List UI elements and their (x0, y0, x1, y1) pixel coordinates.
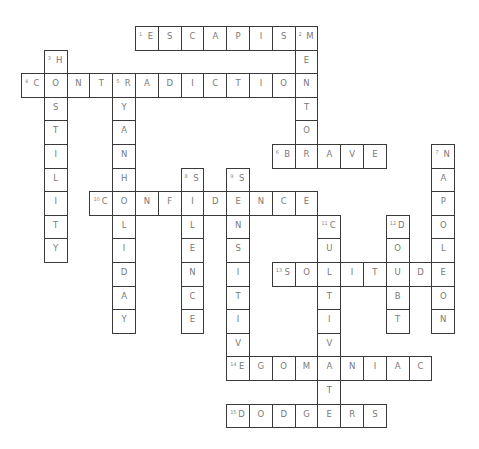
crossword-cell[interactable]: O (431, 286, 455, 311)
crossword-cell[interactable]: 6B (272, 144, 296, 169)
crossword-cell[interactable]: 15D (226, 404, 250, 429)
crossword-cell[interactable]: G (249, 356, 273, 381)
crossword-cell[interactable]: 4C (21, 73, 45, 98)
crossword-cell[interactable]: I (363, 356, 387, 381)
crossword-cell[interactable]: V (317, 333, 341, 358)
crossword-cell[interactable]: T (386, 309, 410, 334)
crossword-cell[interactable]: N (340, 356, 364, 381)
crossword-cell[interactable]: V (226, 333, 250, 358)
crossword-cell[interactable]: A (112, 286, 136, 311)
crossword-cell[interactable]: I (112, 238, 136, 263)
crossword-cell[interactable]: A (431, 168, 455, 193)
crossword-cell[interactable]: 7N (431, 144, 455, 169)
crossword-cell[interactable]: D (112, 262, 136, 287)
crossword-cell[interactable]: A (112, 120, 136, 145)
crossword-cell[interactable]: 12D (386, 215, 410, 240)
crossword-cell[interactable]: I (249, 73, 273, 98)
crossword-cell[interactable]: O (295, 120, 319, 145)
crossword-cell[interactable]: T (317, 286, 341, 311)
crossword-cell[interactable]: A (317, 356, 341, 381)
crossword-cell[interactable]: O (295, 262, 319, 287)
crossword-cell[interactable]: S (272, 26, 296, 51)
crossword-cell[interactable]: A (386, 356, 410, 381)
crossword-cell[interactable]: T (226, 286, 250, 311)
crossword-cell[interactable]: O (44, 73, 68, 98)
crossword-cell[interactable]: R (295, 144, 319, 169)
crossword-cell[interactable]: S (158, 26, 182, 51)
crossword-cell[interactable]: O (431, 215, 455, 240)
crossword-cell[interactable]: 9S (226, 168, 250, 193)
crossword-cell[interactable]: A (317, 144, 341, 169)
crossword-cell[interactable]: F (158, 191, 182, 216)
crossword-cell[interactable]: I (44, 144, 68, 169)
crossword-cell[interactable]: C (181, 26, 205, 51)
crossword-cell[interactable]: T (317, 380, 341, 405)
crossword-cell[interactable]: I (226, 309, 250, 334)
crossword-cell[interactable]: O (272, 73, 296, 98)
crossword-cell[interactable]: E (317, 404, 341, 429)
crossword-cell[interactable]: T (89, 73, 113, 98)
crossword-cell[interactable]: L (112, 215, 136, 240)
crossword-cell[interactable]: U (317, 238, 341, 263)
crossword-cell[interactable]: N (112, 144, 136, 169)
crossword-cell[interactable]: 10C (89, 191, 113, 216)
crossword-cell[interactable]: E (181, 309, 205, 334)
crossword-cell[interactable]: P (431, 191, 455, 216)
crossword-cell[interactable]: 14E (226, 356, 250, 381)
crossword-cell[interactable]: I (44, 191, 68, 216)
crossword-cell[interactable]: O (249, 404, 273, 429)
crossword-cell[interactable]: C (272, 191, 296, 216)
crossword-cell[interactable]: E (226, 191, 250, 216)
crossword-cell[interactable]: A (135, 73, 159, 98)
crossword-cell[interactable]: N (431, 309, 455, 334)
crossword-cell[interactable]: I (181, 73, 205, 98)
crossword-cell[interactable]: P (226, 26, 250, 51)
crossword-cell[interactable]: E (295, 50, 319, 75)
crossword-cell[interactable]: T (295, 97, 319, 122)
crossword-cell[interactable]: 13S (272, 262, 296, 287)
crossword-cell[interactable]: N (249, 191, 273, 216)
crossword-cell[interactable]: E (431, 262, 455, 287)
crossword-cell[interactable]: Y (112, 97, 136, 122)
crossword-cell[interactable]: U (386, 262, 410, 287)
crossword-cell[interactable]: N (226, 215, 250, 240)
crossword-cell[interactable]: N (181, 262, 205, 287)
crossword-cell[interactable]: E (181, 238, 205, 263)
crossword-cell[interactable]: D (409, 262, 433, 287)
crossword-cell[interactable]: Y (44, 238, 68, 263)
crossword-cell[interactable]: 3H (44, 50, 68, 75)
crossword-cell[interactable]: C (203, 73, 227, 98)
crossword-cell[interactable]: G (295, 404, 319, 429)
crossword-cell[interactable]: L (317, 262, 341, 287)
crossword-cell[interactable]: L (181, 215, 205, 240)
crossword-cell[interactable]: O (386, 238, 410, 263)
crossword-cell[interactable]: A (203, 26, 227, 51)
crossword-cell[interactable]: V (340, 144, 364, 169)
crossword-cell[interactable]: 1E (135, 26, 159, 51)
crossword-cell[interactable]: 2M (295, 26, 319, 51)
crossword-cell[interactable]: 11C (317, 215, 341, 240)
crossword-cell[interactable]: C (409, 356, 433, 381)
crossword-cell[interactable]: I (340, 262, 364, 287)
crossword-cell[interactable]: T (44, 215, 68, 240)
crossword-cell[interactable]: E (363, 144, 387, 169)
crossword-cell[interactable]: 5R (112, 73, 136, 98)
crossword-cell[interactable]: N (67, 73, 91, 98)
crossword-cell[interactable]: I (181, 191, 205, 216)
crossword-cell[interactable]: S (44, 97, 68, 122)
crossword-cell[interactable]: L (44, 168, 68, 193)
crossword-cell[interactable]: T (226, 73, 250, 98)
crossword-cell[interactable]: T (363, 262, 387, 287)
crossword-cell[interactable]: N (295, 73, 319, 98)
crossword-cell[interactable]: N (135, 191, 159, 216)
crossword-cell[interactable]: I (249, 26, 273, 51)
crossword-cell[interactable]: T (44, 120, 68, 145)
crossword-cell[interactable]: Y (112, 309, 136, 334)
crossword-cell[interactable]: O (272, 356, 296, 381)
crossword-cell[interactable]: D (272, 404, 296, 429)
crossword-cell[interactable]: D (158, 73, 182, 98)
crossword-cell[interactable]: I (317, 309, 341, 334)
crossword-cell[interactable]: M (295, 356, 319, 381)
crossword-cell[interactable]: D (203, 191, 227, 216)
crossword-cell[interactable]: H (112, 168, 136, 193)
